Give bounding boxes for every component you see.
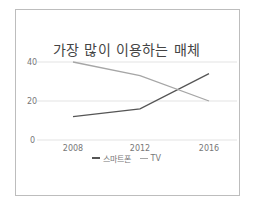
chart-plot: 40 20 0 2008 2012 2016	[0, 0, 253, 204]
series-smartphone-line	[73, 74, 209, 117]
series-tv-line	[73, 62, 209, 101]
legend-item-tv: TV	[140, 154, 161, 163]
legend-swatch-tv	[140, 158, 148, 159]
gridlines	[37, 62, 237, 140]
y-axis-ticks: 40 20 0	[27, 58, 37, 145]
y-tick-20: 20	[27, 97, 37, 106]
y-tick-40: 40	[27, 58, 37, 67]
legend: 스마트폰 TV	[0, 152, 253, 164]
y-tick-0: 0	[30, 136, 35, 145]
legend-label-tv: TV	[151, 154, 161, 163]
legend-swatch-smartphone	[92, 157, 100, 159]
legend-item-smartphone: 스마트폰	[92, 153, 131, 164]
legend-label-smartphone: 스마트폰	[103, 153, 131, 164]
